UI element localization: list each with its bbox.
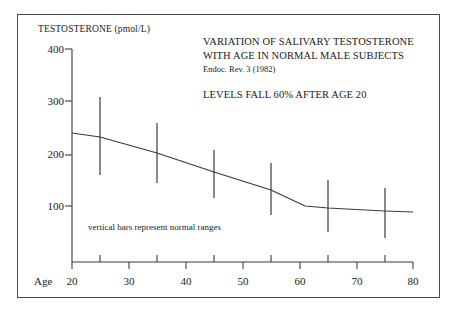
testosterone-trend-line xyxy=(72,133,413,212)
error-bar-footnote: vertical bars represent normal ranges xyxy=(88,222,221,232)
chart-figure: TESTOSTERONE (pmol/L) 400 300 200 100 Ag… xyxy=(0,0,456,315)
x-tick-label-30: 30 xyxy=(117,275,141,287)
x-tick-label-60: 60 xyxy=(288,275,312,287)
chart-source-citation: Endoc. Rev. 3 (1982) xyxy=(203,64,275,74)
x-tick-label-50: 50 xyxy=(231,275,255,287)
chart-title-line-2: WITH AGE IN NORMAL MALE SUBJECTS xyxy=(203,50,404,61)
y-tick-label-100: 100 xyxy=(34,200,64,212)
x-tick-label-80: 80 xyxy=(401,275,425,287)
chart-plot-area xyxy=(0,0,456,315)
y-tick-label-400: 400 xyxy=(34,43,64,55)
x-axis-minor-ticks xyxy=(100,255,385,262)
chart-highlight-statement: LEVELS FALL 60% AFTER AGE 20 xyxy=(203,89,367,100)
x-tick-label-40: 40 xyxy=(174,275,198,287)
y-tick-label-200: 200 xyxy=(34,148,64,160)
normal-range-bars xyxy=(100,97,385,238)
y-axis-ticks xyxy=(65,49,72,206)
y-axis-title: TESTOSTERONE (pmol/L) xyxy=(38,24,150,34)
x-tick-label-70: 70 xyxy=(345,275,369,287)
chart-title-line-1: VARIATION OF SALIVARY TESTOSTERONE xyxy=(203,36,414,47)
y-tick-label-300: 300 xyxy=(34,95,64,107)
x-tick-label-20: 20 xyxy=(60,275,84,287)
x-axis-major-ticks xyxy=(72,262,413,269)
x-axis-title: Age xyxy=(34,275,52,287)
